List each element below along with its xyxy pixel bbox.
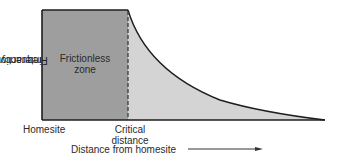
critical-distance-label: Critical distance [108, 124, 152, 146]
homesite-tick-label: Homesite [23, 124, 65, 135]
frictionless-zone-label: Frictionless zone [55, 53, 115, 75]
zone-label-line2: zone [55, 64, 115, 75]
distance-decay-diagram [0, 0, 341, 164]
x-axis-label: Distance from homesite [71, 144, 176, 155]
y-axis-label-line2: interaction [0, 55, 41, 66]
decay-area [128, 10, 325, 120]
critical-label-line1: Critical [108, 124, 152, 135]
arrow-right-icon [255, 147, 263, 151]
zone-label-line1: Frictionless [55, 53, 115, 64]
y-axis-label: Frequency ofinteraction [3, 20, 33, 100]
